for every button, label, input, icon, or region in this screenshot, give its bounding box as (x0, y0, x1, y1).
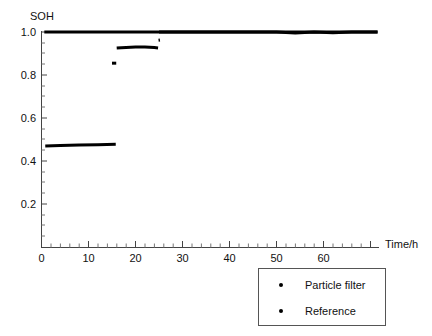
y-tick-label: 0.2 (21, 198, 36, 210)
series-particle-filter-segment (45, 144, 116, 146)
y-tick-label: 0.6 (21, 112, 36, 124)
legend-marker-dot-icon (279, 283, 283, 287)
y-axis-label: SOH (30, 10, 54, 22)
x-tick-label: 0 (38, 252, 44, 264)
legend-label-particle-filter: Particle filter (305, 279, 366, 291)
chart-svg: 1.0 0.8 0.6 0.4 0.2 SOH (0, 0, 432, 336)
y-tick-label: 0.8 (21, 69, 36, 81)
soh-chart-figure: 1.0 0.8 0.6 0.4 0.2 SOH (0, 0, 432, 336)
x-axis-label: Time/h (385, 238, 418, 250)
y-axis-tick-labels: 1.0 0.8 0.6 0.4 0.2 (21, 26, 36, 210)
x-tick-label: 30 (176, 252, 188, 264)
series-particle-filter-segment (117, 47, 158, 48)
x-axis-tick-labels: 0 10 20 30 40 50 60 (38, 252, 329, 264)
x-tick-label: 60 (317, 252, 329, 264)
legend-marker-dot-icon (279, 309, 283, 313)
y-tick-label: 0.4 (21, 155, 36, 167)
y-axis-ticks (42, 32, 48, 236)
x-tick-label: 50 (270, 252, 282, 264)
y-tick-label: 1.0 (21, 26, 36, 38)
x-tick-label: 40 (223, 252, 235, 264)
axes (42, 31, 380, 248)
series-particle-filter (45, 32, 377, 146)
x-tick-label: 20 (129, 252, 141, 264)
series-particle-filter-segment (159, 32, 378, 33)
legend: Particle filter Reference (259, 269, 386, 326)
plot-area (44, 32, 377, 146)
x-tick-label: 10 (82, 252, 94, 264)
legend-label-reference: Reference (305, 305, 356, 317)
x-axis-ticks (42, 241, 371, 248)
